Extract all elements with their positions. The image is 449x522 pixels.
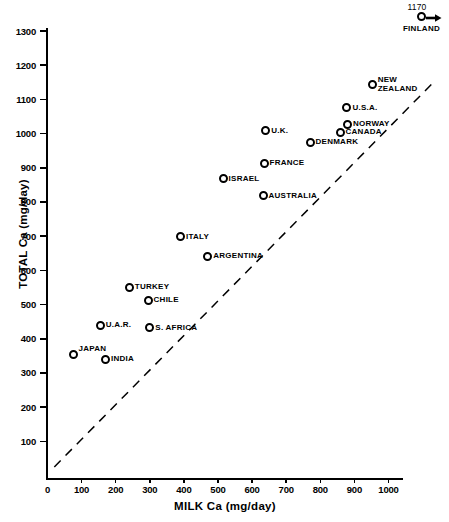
data-point-marker [176,232,185,241]
data-point-label: U.K. [271,127,288,136]
data-point-marker [261,126,270,135]
data-point-label: U.A.R. [106,321,132,330]
x-tick-mark [81,478,83,483]
data-point-marker [69,350,78,359]
x-axis-title: MILK Ca (mg/day) [60,500,390,512]
y-axis-title: TOTAL Ca (mg/day) [17,159,29,309]
data-point-label: JAPAN [79,345,107,354]
data-point-marker [219,174,228,183]
data-point-label: DENMARK [316,138,359,147]
y-tick-label: 200 [2,402,36,413]
data-point-marker [144,296,153,305]
data-point-label: U.S.A. [352,104,377,113]
data-point-label: FRANCE [270,159,305,168]
x-tick-label: 900 [339,484,369,495]
y-tick-mark [40,372,47,374]
x-tick-label: 300 [135,484,165,495]
data-point-label: AUSTRALIA [269,192,317,201]
x-tick-mark [388,478,390,483]
y-tick-mark [40,133,47,135]
data-point-marker [203,252,212,261]
data-point-marker [101,355,110,364]
scatter-chart-figure: 1002003004005006007008009001000110012001… [0,0,449,522]
x-tick-mark [285,478,287,483]
offscale-annotation-finland: 1170 FINLAND [396,2,449,38]
x-tick-mark [183,478,185,483]
data-point-marker [368,80,377,89]
data-point-label: CANADA [346,128,382,137]
y-tick-label: 1000 [2,128,36,139]
y-tick-mark [40,338,47,340]
data-point-label: ISRAEL [229,175,260,184]
y-tick-label: 1100 [2,94,36,105]
y-tick-label: 400 [2,333,36,344]
x-tick-mark [251,478,253,483]
data-point-marker [96,321,105,330]
y-axis-line [46,28,48,480]
x-tick-mark [149,478,151,483]
y-tick-mark [40,201,47,203]
x-axis-line [46,478,403,480]
x-tick-label: 200 [101,484,131,495]
y-tick-label: 300 [2,367,36,378]
data-point-label: INDIA [111,355,134,364]
data-point-label: ARGENTINA [213,252,263,261]
y-tick-mark [40,235,47,237]
x-tick-label: 400 [169,484,199,495]
y-tick-mark [40,64,47,66]
data-point-marker [145,323,154,332]
y-tick-mark [40,167,47,169]
offscale-marker [417,12,426,21]
y-tick-mark [40,406,47,408]
arrow-right-icon [426,14,442,22]
data-point-marker [343,120,352,129]
y-tick-label: 1200 [2,60,36,71]
x-tick-label: 700 [271,484,301,495]
data-point-marker [259,191,268,200]
data-point-label: NORWAY [353,120,390,129]
data-point-marker [125,283,134,292]
y-tick-mark [40,30,47,32]
y-tick-mark [40,99,47,101]
y-tick-mark [40,304,47,306]
data-point-label: S. AFRICA [155,324,197,333]
x-tick-label: 1000 [374,484,404,495]
data-point-label: TURKEY [135,283,169,292]
x-tick-mark [320,478,322,483]
data-point-marker [342,103,351,112]
data-point-label: NEW ZEALAND [378,76,418,93]
y-tick-mark [40,270,47,272]
x-tick-label: 500 [203,484,233,495]
data-point-label: CHILE [154,296,179,305]
data-point-marker [260,159,269,168]
y-tick-label: 1300 [2,26,36,37]
y-tick-mark [40,441,47,443]
data-point-label: ITALY [186,233,209,242]
data-point-marker [336,128,345,137]
x-tick-mark [217,478,219,483]
x-tick-label: 600 [237,484,267,495]
data-point-marker [306,138,315,147]
offscale-value-label: 1170 [396,2,438,12]
x-tick-label: 0 [33,484,63,495]
x-tick-label: 800 [305,484,335,495]
offscale-country-label: FINLAND [394,24,449,33]
x-tick-mark [354,478,356,483]
y-tick-label: 100 [2,436,36,447]
x-tick-label: 100 [67,484,97,495]
x-tick-mark [115,478,117,483]
